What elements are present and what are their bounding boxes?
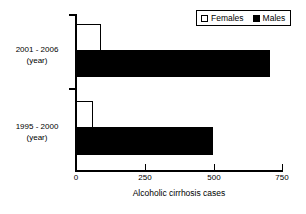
category-label-2001-2006-line1: 2001 - 2006 xyxy=(16,45,59,54)
category-label-2001-2006-line2: (year) xyxy=(2,55,72,66)
x-tick-mark-500 xyxy=(214,164,215,171)
x-tick-label-750: 750 xyxy=(267,173,297,183)
legend-item-females: Females xyxy=(201,13,244,23)
x-tick-label-500: 500 xyxy=(199,173,229,183)
alcoholic-cirrhosis-bar-chart: 2001 - 2006 (year) 1995 - 2000 (year) 0 … xyxy=(0,0,306,214)
x-axis-line xyxy=(75,170,283,172)
legend-item-males: Males xyxy=(253,13,286,23)
x-tick-mark-250 xyxy=(145,164,146,171)
chart-legend: Females Males xyxy=(196,10,291,26)
legend-swatch-females-icon xyxy=(201,15,208,22)
y-axis-tick-top xyxy=(69,14,76,16)
bar-females-2001-2006 xyxy=(76,24,101,51)
legend-swatch-males-icon xyxy=(253,15,260,22)
bar-males-1995-2000 xyxy=(76,127,213,155)
category-label-2001-2006: 2001 - 2006 (year) xyxy=(2,44,72,66)
legend-label-males: Males xyxy=(263,13,286,23)
x-tick-mark-750 xyxy=(282,164,283,171)
y-axis-tick-middle xyxy=(69,88,76,90)
x-axis-title: Alcoholic cirrhosis cases xyxy=(75,188,283,198)
bar-females-1995-2000 xyxy=(76,101,93,129)
category-label-1995-2000-line1: 1995 - 2000 xyxy=(16,122,59,131)
legend-label-females: Females xyxy=(211,13,244,23)
x-tick-mark-0 xyxy=(76,164,77,171)
x-tick-label-0: 0 xyxy=(61,173,91,183)
x-tick-label-250: 250 xyxy=(130,173,160,183)
bar-males-2001-2006 xyxy=(76,50,270,77)
category-label-1995-2000-line2: (year) xyxy=(2,132,72,143)
category-label-1995-2000: 1995 - 2000 (year) xyxy=(2,121,72,143)
